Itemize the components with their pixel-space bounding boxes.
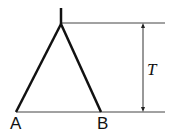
dimension-arrow-down-icon bbox=[141, 107, 145, 112]
point-b-label: B bbox=[97, 114, 108, 133]
right-leg bbox=[61, 24, 101, 112]
dimension-arrow-up-icon bbox=[141, 23, 145, 28]
left-leg bbox=[16, 24, 61, 112]
a-frame-diagram: T A B bbox=[0, 0, 175, 140]
height-label: T bbox=[147, 60, 158, 79]
point-a-label: A bbox=[10, 114, 22, 133]
